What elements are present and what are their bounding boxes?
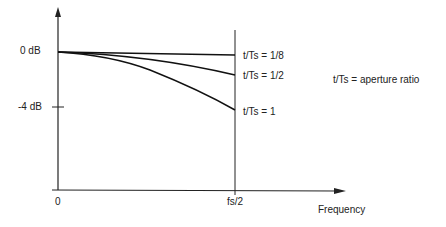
curve-1 (58, 52, 235, 110)
legend-curve-1-8: t/Ts = 1/8 (243, 50, 284, 61)
x-axis-arrow-icon (334, 188, 346, 194)
chart-canvas (0, 0, 446, 227)
aperture-ratio-note: t/Ts = aperture ratio (333, 74, 419, 85)
y-label-minus4db: -4 dB (18, 101, 42, 112)
y-label-0db: 0 dB (20, 45, 41, 56)
x-axis-title: Frequency (318, 204, 365, 215)
curve-1-2 (58, 52, 235, 75)
legend-curve-1-2: t/Ts = 1/2 (243, 70, 284, 81)
x-label-fs2: fs/2 (227, 196, 243, 207)
x-label-0: 0 (55, 196, 61, 207)
x-axis (52, 190, 338, 191)
legend-curve-1: t/Ts = 1 (243, 106, 276, 117)
y-axis-arrow-icon (55, 7, 61, 17)
